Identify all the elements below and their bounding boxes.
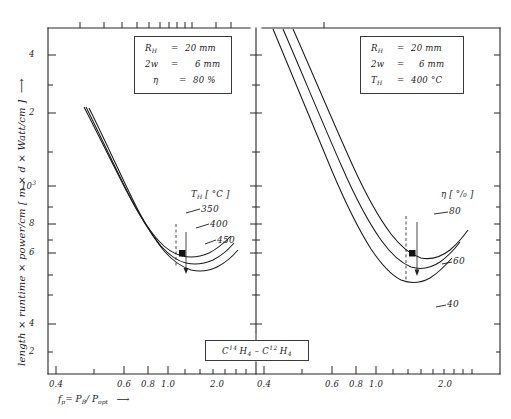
ytick-label-600: 6 bbox=[29, 248, 35, 257]
left-series-header-sub: H bbox=[197, 193, 202, 200]
x-axis-title-eq: = P bbox=[65, 394, 81, 404]
right-xtick-0-6: 0.6 bbox=[325, 380, 339, 389]
left-param-row-2: η = 80 % bbox=[145, 75, 231, 86]
ytick-label-4000: 4 bbox=[29, 50, 35, 59]
right-xtick-0-4: 0.4 bbox=[257, 380, 271, 389]
right-param-row-1: 2w = 6 mm bbox=[371, 59, 463, 70]
left-y-ticks bbox=[48, 55, 56, 352]
left-series-label-450: 450 bbox=[217, 236, 235, 245]
right-param-2-val: 400 °C bbox=[411, 75, 442, 85]
right-series-label-40: 40 bbox=[447, 300, 459, 309]
right-series-header-unit: [ °/₀ ] bbox=[449, 189, 473, 199]
left-param-0-val: 20 mm bbox=[185, 43, 216, 53]
left-param-2-eq: = bbox=[179, 75, 193, 85]
left-top-ticks bbox=[80, 22, 231, 28]
left-series-label-350: 350 bbox=[201, 205, 219, 214]
right-param-0-sym: R bbox=[371, 43, 378, 53]
left-param-0-sym: R bbox=[145, 43, 152, 53]
right-series-header-sym: η bbox=[441, 189, 446, 199]
right-marker-group bbox=[406, 216, 419, 282]
substance-dash: – bbox=[252, 346, 263, 356]
right-param-2-sub: H bbox=[377, 79, 382, 86]
substance-iso2: 12 bbox=[269, 344, 277, 351]
y-axis-title: length × runtime × power/cm [ m × d × Wa… bbox=[16, 78, 27, 366]
substance-iso1: 14 bbox=[229, 344, 237, 351]
left-marker-point bbox=[179, 250, 186, 257]
right-series-label-80: 80 bbox=[449, 207, 461, 216]
substance-mol1: 4 bbox=[247, 350, 251, 357]
left-xtick-0-4: 0.4 bbox=[49, 380, 63, 389]
left-param-1-sym: 2w bbox=[145, 59, 158, 69]
left-x-ticks bbox=[56, 366, 246, 374]
ytick-label-800: 8 bbox=[29, 219, 35, 228]
x-axis-title: fp = PB / Popt ⟶ bbox=[58, 394, 129, 405]
right-param-2-eq: = bbox=[397, 75, 411, 85]
left-param-row-0: RH = 20 mm bbox=[145, 43, 231, 54]
curve-left-350 bbox=[84, 107, 231, 257]
right-parameter-box: RH = 20 mm 2w = 6 mm TH = 400 °C bbox=[360, 36, 464, 94]
left-param-0-sub: H bbox=[152, 47, 157, 54]
left-param-0-eq: = bbox=[171, 43, 185, 53]
right-x-ticks bbox=[264, 366, 472, 374]
right-param-1-sym: 2w bbox=[371, 59, 384, 69]
left-xtick-2-0: 2.0 bbox=[210, 380, 224, 389]
left-series-header-unit: [ °C ] bbox=[205, 189, 229, 199]
left-series-label-400: 400 bbox=[210, 220, 228, 229]
right-marker-arrow-head bbox=[415, 270, 420, 277]
right-param-row-2: TH = 400 °C bbox=[371, 75, 463, 86]
x-axis-title-sub-opt: opt bbox=[98, 398, 108, 405]
right-param-1-val: 6 mm bbox=[411, 59, 444, 69]
substance-label-box: C14H4–C12H4 bbox=[205, 340, 309, 361]
left-param-1-val: 6 mm bbox=[185, 59, 220, 69]
left-marker-arrow-head bbox=[184, 268, 189, 274]
figure-canvas: 4 2 103 8 6 4 2 0.4 0.6 0.8 1.0 2.0 0.4 … bbox=[0, 0, 511, 419]
substance-formula: C14H4–C12H4 bbox=[222, 344, 292, 357]
right-border-ticks bbox=[494, 55, 500, 352]
ytick-label-400: 4 bbox=[29, 319, 35, 328]
left-xtick-1-0: 1.0 bbox=[161, 380, 175, 389]
curve-left-400 bbox=[86, 107, 234, 264]
right-xtick-0-8: 0.8 bbox=[349, 380, 363, 389]
left-series-header: TH [ °C ] bbox=[191, 190, 230, 200]
left-param-row-1: 2w = 6 mm bbox=[145, 59, 231, 70]
right-xtick-2-0: 2.0 bbox=[438, 380, 452, 389]
y-axis-title-text: length × runtime × power/cm [ m × d × Wa… bbox=[16, 100, 27, 366]
ytick-label-200: 2 bbox=[29, 347, 35, 356]
right-param-0-eq: = bbox=[397, 43, 411, 53]
right-param-0-sub: H bbox=[378, 47, 383, 54]
x-axis-arrow: ⟶ bbox=[111, 394, 130, 404]
right-series-header: η [ °/₀ ] bbox=[441, 190, 474, 200]
ytick-label-2000: 2 bbox=[29, 108, 35, 117]
x-axis-title-div: / P bbox=[86, 394, 98, 404]
left-param-1-eq: = bbox=[171, 59, 185, 69]
left-param-2-val: 80 % bbox=[193, 75, 216, 85]
right-xtick-1-0: 1.0 bbox=[369, 380, 383, 389]
right-series-label-60: 60 bbox=[453, 257, 465, 266]
right-param-0-val: 20 mm bbox=[411, 43, 442, 53]
substance-mol2: 4 bbox=[288, 350, 292, 357]
right-param-1-eq: = bbox=[397, 59, 411, 69]
left-xtick-0-6: 0.6 bbox=[117, 380, 131, 389]
left-parameter-box: RH = 20 mm 2w = 6 mm η = 80 % bbox=[134, 36, 232, 94]
right-marker-point bbox=[409, 250, 416, 257]
right-param-row-0: RH = 20 mm bbox=[371, 43, 463, 54]
left-xtick-0-8: 0.8 bbox=[141, 380, 155, 389]
y-axis-arrow: ⟶ bbox=[16, 78, 27, 96]
left-param-2-sym: η bbox=[153, 75, 158, 85]
